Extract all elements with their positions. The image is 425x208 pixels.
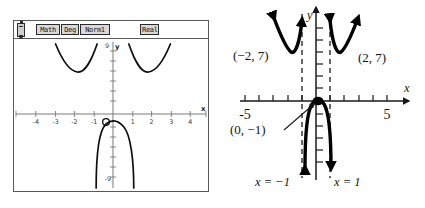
calculator-plot-area: -4 -3 -2 -1 1 2 3 4 9 -9 y x [14,39,208,191]
book-point-y-intercept [313,97,324,105]
calc-xtick--3: -3 [52,118,58,125]
label-right-branch-point: (2, 7) [358,50,386,65]
calculator-status-bar: Math Deg Norm1 Real [14,21,208,39]
book-y-axis-label: y [305,8,313,22]
calc-xtick--2: -2 [71,118,77,125]
calc-xtick-4: 4 [188,118,192,125]
figure-root: Math Deg Norm1 Real [0,0,425,208]
textbook-graph: x y -5 5 (−2, 7) (2, 7) (0, −1) x = −1 x… [212,0,425,208]
calc-xtick--4: -4 [33,118,39,125]
calc-ytick--9: -9 [105,175,111,182]
book-xtick--5: -5 [239,107,251,122]
book-xtick-5: 5 [384,107,391,122]
status-tag-deg: Deg [61,24,79,35]
label-asymptote-left: x = −1 [254,175,290,189]
calc-curve-left-branch [56,44,98,72]
battery-icon [17,23,25,37]
book-y-ticks [316,28,323,162]
calc-xtick-3: 3 [169,118,173,125]
calc-ytick-9: 9 [105,42,109,49]
calc-y-axis-label: y [115,43,120,51]
status-tag-norm1: Norm1 [80,24,110,35]
calculator-screenshot: Math Deg Norm1 Real [13,20,209,192]
label-asymptote-right: x = 1 [333,175,360,189]
calc-curve-middle-branch [96,121,134,188]
calc-xtick-1: 1 [131,118,135,125]
book-x-axis-label: x [403,81,410,95]
status-tag-math: Math [36,24,60,35]
book-curve-middle-branch [305,101,331,168]
label-y-intercept: (0, −1) [230,122,266,137]
calc-xtick-2: 2 [150,118,154,125]
status-tag-real: Real [140,24,159,35]
calc-x-axis-label: x [201,105,206,113]
calc-curve-right-branch [129,44,171,72]
calc-xtick--1: -1 [91,118,97,125]
book-curve-right-branch [330,18,358,52]
book-curve-left-branch [274,18,302,52]
label-left-branch-point: (−2, 7) [233,48,269,63]
